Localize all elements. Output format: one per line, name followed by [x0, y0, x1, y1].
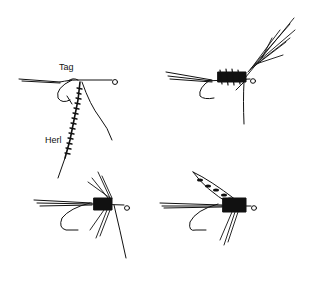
- panel-3-hackle-wound: [34, 172, 130, 258]
- panel-2-body-and-hackle-tied-in: [166, 18, 295, 124]
- panel-4-finished-fly-with-wing: [160, 172, 257, 245]
- herl-label: Herl: [45, 136, 62, 145]
- panel-1-hook-with-tag-and-herl: [19, 79, 118, 178]
- tag-label: Tag: [59, 63, 74, 72]
